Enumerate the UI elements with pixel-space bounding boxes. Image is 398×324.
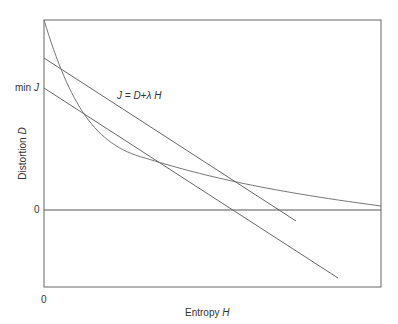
y-label-text: Distortion [17, 137, 28, 179]
cost-line-upper [44, 58, 296, 221]
x-axis-label: Entropy H [185, 307, 229, 318]
line-equation-label: J = D+λ H [117, 90, 161, 101]
x-label-text: Entropy [185, 307, 219, 318]
diagram-canvas [0, 0, 398, 324]
min-label: min [15, 82, 31, 93]
y-tick-min-j: min J [15, 82, 39, 93]
y-label-var: D [17, 127, 28, 134]
cost-line-tangent [44, 88, 338, 278]
y-tick-zero: 0 [34, 204, 40, 215]
x-tick-zero: 0 [41, 294, 47, 305]
y-axis-label: Distortion D [17, 127, 28, 179]
plot-frame [44, 20, 381, 287]
j-var: J [34, 82, 39, 93]
rate-distortion-curve [44, 20, 381, 206]
x-label-var: H [222, 307, 229, 318]
